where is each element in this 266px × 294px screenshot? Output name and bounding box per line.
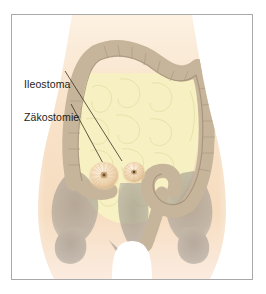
left-stoma (89, 162, 119, 190)
label-ileostoma: Ileostoma (24, 78, 70, 90)
right-stoma (123, 162, 146, 184)
anatomy-illustration (12, 15, 252, 279)
label-zaekostomie: Zäkostomie (24, 111, 79, 123)
figure-root: Ileostoma Zäkostomie (0, 0, 266, 294)
figure-frame: Ileostoma Zäkostomie (11, 14, 253, 280)
